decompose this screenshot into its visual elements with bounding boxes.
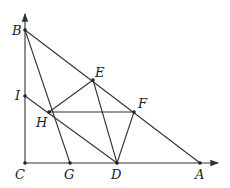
label-I: I <box>14 88 21 103</box>
point-G <box>68 161 72 165</box>
point-H <box>47 110 51 114</box>
point-D <box>115 161 119 165</box>
point-I <box>23 94 27 98</box>
segment-FD <box>117 112 134 163</box>
point-C <box>23 161 27 165</box>
label-C: C <box>15 167 25 182</box>
point-A <box>198 161 202 165</box>
label-F: F <box>137 96 148 111</box>
label-E: E <box>94 65 105 80</box>
point-F <box>132 110 136 114</box>
segment-HE <box>49 80 93 112</box>
label-D: D <box>110 167 122 182</box>
point-B <box>23 28 27 32</box>
label-G: G <box>64 167 74 182</box>
segment-BG <box>25 30 70 163</box>
label-A: A <box>194 167 204 182</box>
label-B: B <box>11 23 22 38</box>
segment-BA <box>25 30 200 163</box>
geometry-diagram: B I H C G D A E F <box>0 0 230 188</box>
segment-ED <box>93 80 117 163</box>
label-H: H <box>35 115 48 130</box>
